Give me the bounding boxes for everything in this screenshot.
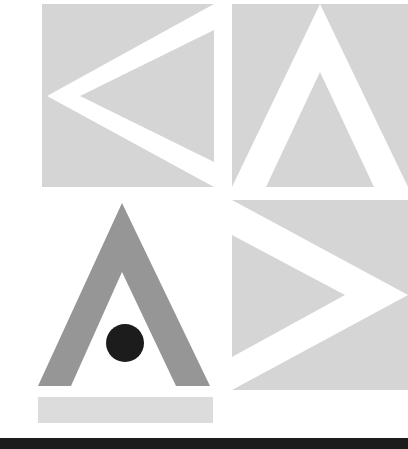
- artwork-canvas: [0, 0, 408, 449]
- geometric-composition: [0, 0, 408, 449]
- gray-bar-accent: [38, 397, 213, 423]
- dark-circle-accent: [106, 324, 144, 362]
- bottom-dark-bar: [0, 438, 408, 449]
